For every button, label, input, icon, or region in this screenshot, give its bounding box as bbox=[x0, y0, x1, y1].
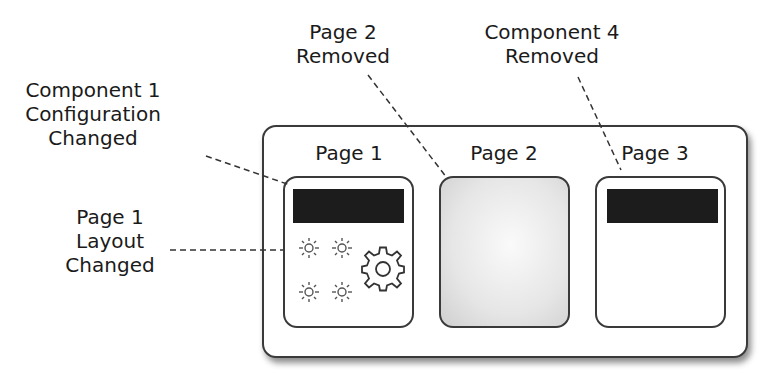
application-container: Page 1 Page 2 Page 3 bbox=[262, 125, 748, 358]
sun-icon bbox=[332, 282, 352, 302]
annotation-line: Changed bbox=[55, 253, 165, 277]
annotation-page1-layout-changed: Page 1 Layout Changed bbox=[55, 205, 165, 277]
annotation-line: Component 1 bbox=[18, 78, 168, 102]
sun-icon bbox=[299, 238, 319, 258]
annotation-component4-removed: Component 4 Removed bbox=[482, 20, 622, 68]
page2-box-removed bbox=[439, 176, 570, 328]
sun-icon bbox=[332, 238, 352, 258]
annotation-line: Removed bbox=[482, 44, 622, 68]
annotation-line: Page 1 bbox=[55, 205, 165, 229]
page1-title: Page 1 bbox=[304, 141, 394, 165]
annotation-line: Page 2 bbox=[288, 20, 398, 44]
sun-icon bbox=[299, 282, 319, 302]
annotation-line: Layout bbox=[55, 229, 165, 253]
component1-bar bbox=[293, 189, 404, 223]
annotation-page2-removed: Page 2 Removed bbox=[288, 20, 398, 68]
annotation-line: Component 4 bbox=[482, 20, 622, 44]
page1-box bbox=[283, 176, 414, 328]
gear-icon bbox=[362, 248, 404, 291]
page3-box bbox=[595, 176, 726, 328]
annotation-line: Changed bbox=[18, 126, 168, 150]
annotation-line: Configuration bbox=[18, 102, 168, 126]
annotation-line: Removed bbox=[288, 44, 398, 68]
page2-title: Page 2 bbox=[459, 141, 549, 165]
page3-title: Page 3 bbox=[610, 141, 700, 165]
annotation-component1-config-changed: Component 1 Configuration Changed bbox=[18, 78, 168, 150]
component-bar bbox=[607, 189, 718, 223]
layout-icons bbox=[285, 226, 412, 326]
